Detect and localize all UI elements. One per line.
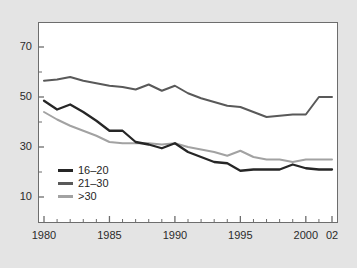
legend-line-swatch bbox=[58, 169, 73, 172]
legend-entry: 16–20 bbox=[58, 164, 109, 176]
x-tick-label: 1980 bbox=[27, 229, 61, 241]
data-line--30 bbox=[44, 112, 332, 162]
chart-canvas bbox=[0, 0, 357, 268]
y-tick-label: 50 bbox=[6, 90, 32, 102]
y-tick-label: 10 bbox=[6, 190, 32, 202]
legend-entry: >30 bbox=[58, 190, 109, 202]
x-tick-label: 1990 bbox=[158, 229, 192, 241]
y-tick-label: 30 bbox=[6, 140, 32, 152]
x-tick-label: 02 bbox=[315, 229, 349, 241]
chart-screenshot: 70503010 1980198519901995200002 16–2021–… bbox=[0, 0, 357, 268]
legend-entry: 21–30 bbox=[58, 177, 109, 189]
legend-label: >30 bbox=[78, 191, 97, 202]
legend-label: 21–30 bbox=[78, 178, 109, 189]
chart-legend: 16–2021–30>30 bbox=[58, 164, 109, 203]
legend-line-swatch bbox=[58, 182, 73, 185]
x-tick-label: 1985 bbox=[92, 229, 126, 241]
y-tick-label: 70 bbox=[6, 40, 32, 52]
data-line-21-30 bbox=[44, 77, 332, 117]
data-series-group bbox=[44, 77, 332, 171]
y-axis-ticks bbox=[38, 47, 44, 197]
legend-line-swatch bbox=[58, 195, 73, 198]
x-axis-ticks bbox=[44, 216, 332, 223]
x-tick-label: 1995 bbox=[223, 229, 257, 241]
legend-label: 16–20 bbox=[78, 165, 109, 176]
